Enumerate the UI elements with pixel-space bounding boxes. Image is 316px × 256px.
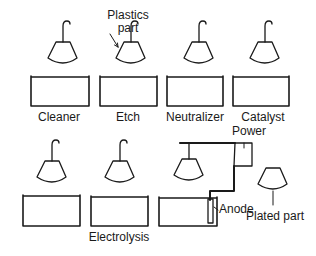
hook-icon: [63, 21, 70, 42]
hook-icon: [265, 21, 272, 42]
plastic-part-icon: [116, 42, 145, 63]
plated-part-label: Plated part: [246, 210, 304, 223]
plastic-part-icon: [105, 161, 134, 182]
plastic-part-icon: [250, 42, 279, 63]
plastic-part-icon: [184, 42, 213, 63]
station-cleaner: [31, 21, 89, 106]
station-5: [23, 140, 80, 226]
plastic-part-icon: [174, 159, 203, 180]
plastics-part-label-line2: part: [118, 22, 139, 35]
hook-icon: [120, 140, 127, 161]
tank: [23, 195, 80, 226]
station-neutralizer: [167, 21, 223, 106]
hook-icon: [199, 21, 206, 42]
tank: [233, 76, 289, 106]
station-label-etch: Etch: [116, 111, 140, 124]
station-label-cleaner: Cleaner: [38, 111, 80, 124]
station-label-neutralizer: Neutralizer: [166, 111, 224, 124]
pointer-line: [110, 34, 118, 47]
tank: [91, 196, 148, 226]
plated-part-icon: [258, 168, 287, 189]
station-electrolysis: [91, 140, 148, 226]
plated-part-result: [258, 168, 287, 205]
power-supply-box: [234, 143, 252, 166]
plastic-part-icon: [37, 161, 66, 182]
plastic-part-icon: [48, 42, 77, 63]
station-catalyst: [233, 21, 289, 106]
tank: [100, 76, 157, 106]
power-label: Power: [232, 125, 266, 138]
hook-icon: [52, 140, 59, 161]
station-label-electrolysis: Electrolysis: [89, 231, 150, 244]
tank: [167, 76, 223, 106]
anode-wire: [210, 166, 234, 200]
station-label-catalyst: Catalyst: [241, 111, 284, 124]
anode: [208, 199, 213, 223]
tank: [31, 76, 89, 106]
